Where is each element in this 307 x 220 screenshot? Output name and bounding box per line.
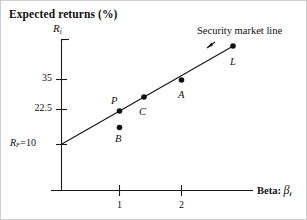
beta-subscript: i: [290, 190, 292, 198]
x-tick-label-1: 1: [105, 200, 134, 210]
sml-label-arrowhead: [207, 43, 213, 49]
point-label-B: B: [115, 134, 121, 145]
page-title: Expected returns (%): [9, 9, 117, 21]
risk-free-value: =10: [20, 137, 36, 148]
point-label-P: P: [111, 96, 117, 107]
y-axis-variable-symbol: R: [53, 22, 60, 34]
point-label-L: L: [230, 57, 236, 68]
x-tick-label-2: 2: [167, 200, 196, 210]
y-axis-variable-subscript: i: [60, 27, 62, 36]
data-point-L[interactable]: [230, 43, 236, 49]
y-tick-label-22-5: 22.5: [15, 103, 52, 113]
security-market-line-figure: Expected returns (%) Ri 35 22.5 RF=10 1 …: [0, 0, 307, 220]
y-axis-risk-free-label: RF=10: [10, 138, 36, 149]
security-market-line-label: Security market line: [197, 26, 282, 37]
security-market-line: [61, 45, 235, 145]
point-label-C: C: [139, 107, 146, 118]
x-axis-title-prefix: Beta:: [257, 185, 281, 196]
y-tick-label-35: 35: [15, 73, 52, 83]
data-point-B[interactable]: [117, 125, 123, 131]
data-point-A[interactable]: [179, 77, 185, 83]
y-axis-variable-label: Ri: [53, 23, 62, 35]
data-point-C[interactable]: [141, 94, 147, 100]
x-axis-title: Beta: βi: [257, 184, 292, 198]
point-label-A: A: [178, 90, 184, 101]
data-point-P[interactable]: [117, 108, 123, 114]
